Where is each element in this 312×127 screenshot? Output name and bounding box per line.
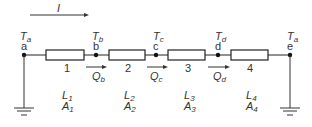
temp-sub: a — [27, 35, 31, 44]
node-b-label: b — [93, 41, 99, 52]
node-c-dot — [154, 53, 158, 57]
a-sub: 1 — [69, 105, 73, 114]
node-a-label: a — [21, 41, 27, 52]
node-e-label: e — [287, 41, 293, 52]
node-b-dot — [94, 53, 98, 57]
temp-sub: c — [160, 35, 164, 44]
q-main: Q — [213, 70, 222, 82]
temp-sub: d — [222, 35, 226, 44]
heat-flow-arrow-d — [208, 65, 230, 69]
q-sub: c — [159, 75, 163, 84]
segment-3-area: A3 — [184, 101, 196, 115]
resistor-2 — [109, 50, 145, 60]
heat-flow-arrow-b — [86, 65, 107, 69]
circuit-diagram — [0, 0, 312, 127]
q-sub: d — [222, 75, 226, 84]
segment-1-area: A1 — [62, 101, 74, 115]
a-sub: 2 — [131, 105, 135, 114]
resistor-4 — [231, 50, 268, 60]
heat-flow-b-label: Qb — [92, 71, 105, 85]
heat-flow-d-label: Qd — [213, 71, 226, 85]
temp-sub: a — [294, 35, 298, 44]
ground-right-icon — [280, 55, 300, 115]
resistor-1 — [46, 50, 84, 60]
node-d-dot — [216, 53, 220, 57]
segment-4-number: 4 — [247, 63, 253, 74]
segment-4-area: A4 — [246, 101, 258, 115]
a-sub: 4 — [253, 105, 257, 114]
heat-flow-c-label: Qc — [150, 71, 163, 85]
temp-sub: b — [99, 35, 103, 44]
q-main: Q — [150, 70, 159, 82]
q-main: Q — [92, 70, 101, 82]
resistor-3 — [168, 50, 205, 60]
q-sub: b — [101, 75, 105, 84]
segment-2-number: 2 — [125, 63, 131, 74]
heat-flow-arrow-c — [147, 65, 168, 69]
segment-3-number: 3 — [185, 63, 191, 74]
node-d-label: d — [215, 41, 221, 52]
segment-1-number: 1 — [64, 63, 70, 74]
a-sub: 3 — [191, 105, 195, 114]
node-c-label: c — [153, 41, 159, 52]
current-label: I — [57, 3, 60, 14]
ground-left-icon — [14, 55, 34, 115]
segment-2-area: A2 — [124, 101, 136, 115]
